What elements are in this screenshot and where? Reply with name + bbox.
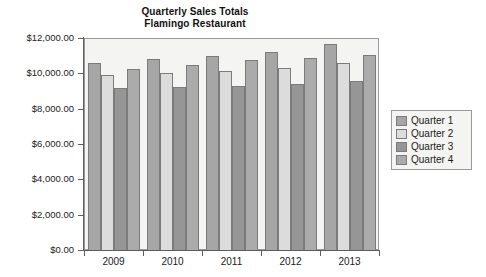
legend-label-q1: Quarter 1 (411, 115, 453, 126)
chart-legend: Quarter 1Quarter 2Quarter 3Quarter 4 (391, 110, 472, 170)
x-axis-tick (379, 251, 380, 256)
bar-2009-q1 (88, 63, 101, 250)
bar-2011-q1 (206, 56, 219, 250)
bar-2011-q3 (232, 86, 245, 250)
bar-2010-q3 (173, 87, 186, 250)
x-axis-tick (143, 251, 144, 256)
bar-2012-q1 (265, 52, 278, 250)
bar-2012-q2 (278, 68, 291, 250)
bar-2013-q2 (337, 63, 350, 250)
x-axis-tick (261, 251, 262, 256)
legend-item-q2: Quarter 2 (396, 127, 468, 140)
x-axis-tick (202, 251, 203, 256)
legend-item-q4: Quarter 4 (396, 153, 468, 166)
bar-2011-q4 (245, 60, 258, 250)
y-axis-tick (78, 179, 84, 180)
y-axis-tick-label: $4,000.00 (32, 174, 74, 184)
bar-2013-q1 (324, 44, 337, 250)
x-axis-tick (320, 251, 321, 256)
x-axis-tick-label: 2010 (153, 256, 193, 267)
bar-2009-q2 (101, 75, 114, 250)
bar-2012-q4 (304, 58, 317, 250)
bar-2011-q2 (219, 71, 232, 250)
bar-2010-q4 (186, 65, 199, 250)
y-axis-tick-label: $0.00 (50, 245, 74, 255)
y-axis-tick (78, 215, 84, 216)
chart-title: Quarterly Sales Totals Flamingo Restaura… (0, 6, 390, 30)
y-axis-tick (78, 109, 84, 110)
bar-2013-q3 (350, 81, 363, 250)
y-axis-tick-label: $12,000.00 (26, 33, 74, 43)
x-axis-line (83, 250, 380, 251)
chart-title-line-2: Flamingo Restaurant (0, 18, 390, 30)
bar-2010-q1 (147, 59, 160, 250)
y-axis-tick-label: $10,000.00 (26, 68, 74, 78)
x-axis-tick-label: 2009 (94, 256, 134, 267)
legend-swatch-q3 (396, 142, 407, 152)
bar-2012-q3 (291, 84, 304, 250)
x-axis-tick-label: 2011 (212, 256, 252, 267)
bar-2013-q4 (363, 55, 376, 250)
legend-item-q1: Quarter 1 (396, 114, 468, 127)
bar-2009-q4 (127, 69, 140, 250)
y-axis-tick (78, 38, 84, 39)
legend-item-q3: Quarter 3 (396, 140, 468, 153)
y-axis-tick-label: $6,000.00 (32, 139, 74, 149)
chart-title-line-1: Quarterly Sales Totals (0, 6, 390, 18)
x-axis-tick-label: 2013 (330, 256, 370, 267)
x-axis-tick-label: 2012 (271, 256, 311, 267)
bar-2009-q3 (114, 88, 127, 250)
legend-swatch-q4 (396, 155, 407, 165)
legend-swatch-q1 (396, 116, 407, 126)
legend-label-q3: Quarter 3 (411, 141, 453, 152)
legend-swatch-q2 (396, 129, 407, 139)
y-axis-tick-label: $2,000.00 (32, 210, 74, 220)
bar-2010-q2 (160, 73, 173, 250)
y-axis-tick-label: $8,000.00 (32, 104, 74, 114)
chart-screenshot: Quarterly Sales Totals Flamingo Restaura… (0, 0, 486, 277)
y-axis-tick (78, 73, 84, 74)
y-axis-tick (78, 144, 84, 145)
x-axis-tick (84, 251, 85, 256)
legend-label-q2: Quarter 2 (411, 128, 453, 139)
legend-label-q4: Quarter 4 (411, 154, 453, 165)
